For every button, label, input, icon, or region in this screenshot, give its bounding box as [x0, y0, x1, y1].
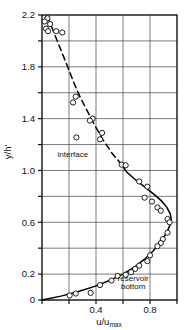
data-point-marker — [165, 230, 170, 235]
data-point-marker — [155, 244, 160, 249]
data-point-marker — [137, 179, 142, 184]
x-tick-label: 0.4 — [89, 304, 102, 315]
data-point-marker — [97, 137, 102, 142]
data-point-marker — [67, 293, 72, 298]
annotation-reservoir-bottom-line2: bottom — [121, 282, 146, 291]
data-point-marker — [54, 29, 59, 34]
data-point-marker — [60, 30, 65, 35]
y-tick-label: 1.0 — [22, 165, 35, 176]
data-point-marker — [73, 94, 78, 99]
data-point-marker — [99, 130, 104, 135]
data-point-marker — [167, 220, 172, 225]
y-tick-label: 0 — [30, 294, 35, 305]
y-tick-label: 1.4 — [22, 113, 35, 124]
data-point-marker — [42, 19, 47, 24]
data-point-marker — [87, 118, 92, 123]
data-point-marker — [149, 199, 154, 204]
data-point-marker — [145, 259, 150, 264]
data-point-marker — [70, 100, 75, 105]
x-axis-label-sub: max — [109, 321, 122, 328]
data-point-marker — [73, 291, 78, 296]
data-point-marker — [48, 21, 53, 26]
annotation-interface: interface — [58, 150, 89, 159]
data-point-marker — [109, 278, 114, 283]
y-tick-label: 1.8 — [22, 61, 35, 72]
data-point-marker — [123, 163, 128, 168]
x-tick-label: 0.8 — [143, 304, 156, 315]
data-point-marker — [88, 290, 93, 295]
x-axis-label-main: u/u — [96, 316, 109, 327]
data-point-marker — [158, 208, 163, 213]
data-point-marker — [145, 184, 150, 189]
data-point-marker — [97, 283, 102, 288]
y-axis-label: y/h' — [2, 145, 13, 160]
data-point-marker — [142, 195, 147, 200]
scatter-plot: 2.21.81.41.00.60.20 0.40.8 interfacerese… — [0, 0, 191, 330]
chart-figure: 2.21.81.41.00.60.20 0.40.8 interfacerese… — [0, 0, 191, 330]
y-tick-label: 0.6 — [22, 217, 35, 228]
y-tick-label: 0.2 — [22, 268, 35, 279]
data-point-marker — [147, 253, 152, 258]
y-tick-label: 2.2 — [22, 9, 35, 20]
data-point-marker — [45, 29, 50, 34]
data-point-marker — [74, 135, 79, 140]
